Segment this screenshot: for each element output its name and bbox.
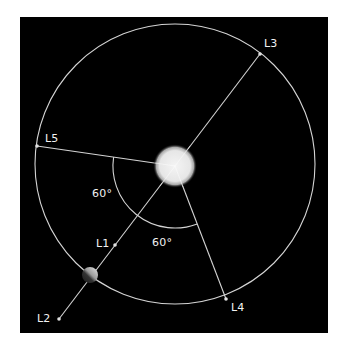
l2-label: L2	[37, 313, 51, 325]
l3-label: L3	[264, 38, 278, 50]
earth-icon	[82, 267, 98, 283]
l5-point	[35, 144, 39, 148]
l3-point	[258, 52, 262, 56]
l4-label: L4	[231, 302, 245, 314]
l2-point	[57, 317, 61, 321]
angle-label-lower: 60°	[152, 237, 172, 249]
l4-point	[224, 297, 228, 301]
lagrange-points-diagram	[0, 0, 342, 345]
l1-label: L1	[96, 238, 110, 250]
angle-label-upper: 60°	[92, 188, 112, 200]
l1-point	[113, 243, 117, 247]
l5-label: L5	[45, 133, 59, 145]
